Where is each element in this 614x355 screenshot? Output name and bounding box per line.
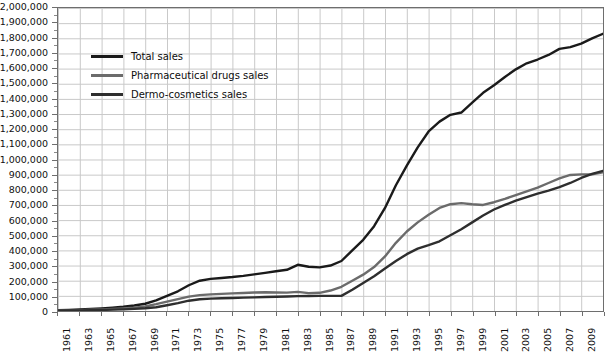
legend-item-label: Total sales: [131, 52, 183, 62]
x-axis: 1961196319651967196919711973197519771979…: [57, 312, 604, 355]
y-axis: 0100,000200,000300,000400,000500,000600,…: [0, 0, 57, 319]
series-line-pharmaceutical-drugs-sales: [58, 172, 603, 310]
x-axis-tick-label: 1983: [303, 328, 313, 352]
x-axis-tick-label: 1965: [106, 328, 116, 352]
y-axis-tick-label: 1,100,000: [0, 139, 48, 149]
chart-legend: Total salesPharmaceutical drugs salesDer…: [91, 51, 269, 100]
x-axis-tick-label: 1989: [368, 328, 378, 352]
y-axis-tick-label: 1,500,000: [0, 78, 48, 88]
x-axis-tick-label: 1987: [346, 328, 356, 352]
line-chart: 0100,000200,000300,000400,000500,000600,…: [0, 0, 614, 355]
x-axis-tick-mark: [232, 312, 233, 316]
x-axis-tick-label: 2009: [587, 328, 597, 352]
legend-item-label: Pharmaceutical drugs sales: [131, 71, 269, 81]
x-axis-tick-mark: [101, 312, 102, 316]
x-axis-tick-mark: [188, 312, 189, 316]
x-axis-tick-label: 1969: [150, 328, 160, 352]
x-axis-tick-label: 2003: [521, 328, 531, 352]
y-axis-tick-label: 2,000,000: [0, 2, 48, 12]
x-axis-tick-mark: [363, 312, 364, 316]
x-axis-tick-mark: [145, 312, 146, 316]
y-axis-tick-label: 300,000: [9, 261, 48, 271]
x-axis-tick-label: 2001: [500, 328, 510, 352]
x-axis-tick-label: 1999: [478, 328, 488, 352]
x-axis-tick-label: 1973: [193, 328, 203, 352]
x-axis-tick-mark: [276, 312, 277, 316]
x-axis-tick-mark: [407, 312, 408, 316]
y-axis-tick-label: 1,300,000: [0, 109, 48, 119]
x-axis-tick-label: 1975: [215, 328, 225, 352]
x-axis-tick-mark: [210, 312, 211, 316]
y-axis-tick-label: 200,000: [9, 277, 48, 287]
x-axis-tick-mark: [473, 312, 474, 316]
x-axis-tick-label: 1979: [259, 328, 269, 352]
x-axis-tick-mark: [166, 312, 167, 316]
y-axis-tick-label: 800,000: [9, 185, 48, 195]
y-axis-tick-label: 1,800,000: [0, 33, 48, 43]
x-axis-tick-label: 1993: [412, 328, 422, 352]
x-axis-tick-mark: [560, 312, 561, 316]
y-axis-tick-label: 1,400,000: [0, 94, 48, 104]
y-axis-tick-label: 1,600,000: [0, 63, 48, 73]
y-axis-tick-label: 1,900,000: [0, 17, 48, 27]
x-axis-tick-mark: [604, 312, 605, 316]
x-axis-tick-mark: [582, 312, 583, 316]
x-axis-tick-label: 1995: [434, 328, 444, 352]
x-axis-tick-label: 1963: [84, 328, 94, 352]
x-axis-tick-mark: [123, 312, 124, 316]
legend-item-dermo-cosmetics-sales: Dermo-cosmetics sales: [91, 89, 269, 100]
x-axis-tick-label: 1997: [456, 328, 466, 352]
x-axis-tick-mark: [57, 312, 58, 316]
y-axis-tick-label: 100,000: [9, 292, 48, 302]
x-axis-tick-mark: [79, 312, 80, 316]
y-axis-tick-label: 700,000: [9, 200, 48, 210]
legend-swatch-icon: [91, 74, 123, 77]
y-axis-tick-label: 400,000: [9, 246, 48, 256]
x-axis-tick-mark: [385, 312, 386, 316]
y-axis-tick-label: 900,000: [9, 170, 48, 180]
legend-item-total-sales: Total sales: [91, 51, 269, 62]
y-axis-tick-label: 600,000: [9, 216, 48, 226]
y-axis-tick-label: 0: [42, 307, 48, 317]
x-axis-tick-label: 2005: [543, 328, 553, 352]
x-axis-tick-mark: [516, 312, 517, 316]
x-axis-tick-label: 1967: [128, 328, 138, 352]
x-axis-tick-label: 1991: [390, 328, 400, 352]
x-axis-tick-label: 1961: [62, 328, 72, 352]
y-axis-tick-label: 1,000,000: [0, 155, 48, 165]
legend-swatch-icon: [91, 55, 123, 58]
x-axis-tick-mark: [298, 312, 299, 316]
x-axis-tick-label: 1981: [281, 328, 291, 352]
x-axis-tick-mark: [538, 312, 539, 316]
x-axis-tick-mark: [495, 312, 496, 316]
legend-swatch-icon: [91, 93, 123, 96]
x-axis-tick-label: 1971: [171, 328, 181, 352]
y-axis-tick-label: 1,200,000: [0, 124, 48, 134]
y-axis-tick-label: 1,700,000: [0, 48, 48, 58]
x-axis-tick-mark: [341, 312, 342, 316]
x-axis-tick-label: 1985: [325, 328, 335, 352]
y-axis-tick-label: 500,000: [9, 231, 48, 241]
x-axis-tick-label: 2007: [565, 328, 575, 352]
x-axis-tick-mark: [429, 312, 430, 316]
legend-item-pharmaceutical-drugs-sales: Pharmaceutical drugs sales: [91, 70, 269, 81]
x-axis-tick-mark: [451, 312, 452, 316]
x-axis-tick-mark: [254, 312, 255, 316]
x-axis-tick-mark: [320, 312, 321, 316]
legend-item-label: Dermo-cosmetics sales: [131, 90, 247, 100]
x-axis-tick-label: 1977: [237, 328, 247, 352]
